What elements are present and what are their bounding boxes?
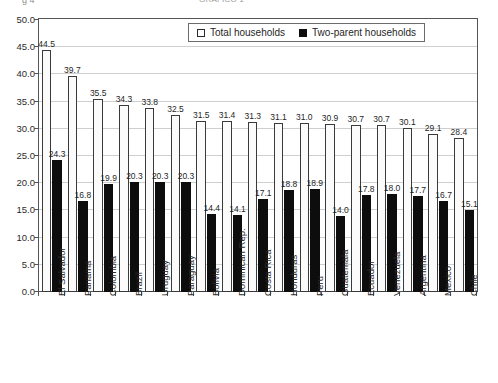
header-center-fragment: GRÁFICO 1 — [199, 0, 244, 4]
data-label-total-households: 30.9 — [319, 114, 341, 123]
data-label-total-households: 32.5 — [165, 105, 187, 114]
x-axis-category-label: Dominican Rep. — [236, 228, 247, 296]
bar-group: 31.118.8 — [271, 19, 297, 292]
x-axis-category-label: Paraguay — [185, 255, 196, 296]
x-axis-category-label: Colombia — [107, 256, 118, 296]
data-label-total-households: 29.1 — [422, 124, 444, 133]
x-axis-category-label: Venezuela — [391, 252, 402, 296]
data-label-total-households: 35.5 — [87, 89, 109, 98]
bar-total-households — [171, 115, 181, 292]
legend-label-total-households: Total households — [210, 27, 285, 38]
data-label-total-households: 30.1 — [397, 118, 419, 127]
bar-group: 35.519.9 — [91, 19, 117, 292]
data-label-total-households: 30.7 — [345, 115, 367, 124]
footer-strip: Dx — [0, 362, 498, 383]
bar-total-households — [300, 123, 310, 292]
bar-total-households — [248, 122, 258, 292]
x-axis-category-label: Peru — [314, 276, 325, 296]
x-axis-category-label: Bolivia — [210, 268, 221, 296]
header-strip: g 4 GRÁFICO 1 — [0, 0, 498, 11]
x-axis-category-label: Costa Rica — [262, 250, 273, 296]
bar-group: 30.117.7 — [400, 19, 426, 292]
chart-root: g 4 GRÁFICO 1 0.05.010.015.020.025.030.0… — [0, 0, 498, 383]
legend-item-total-households: Total households — [197, 27, 285, 38]
open-square-icon — [197, 29, 205, 37]
bar-group: 34.320.3 — [116, 19, 142, 292]
bar-total-households — [145, 108, 155, 292]
bar-group: 28.415.1 — [451, 19, 477, 292]
data-label-total-households: 31.4 — [216, 111, 238, 120]
chart-legend: Total households Two-parent households — [188, 23, 425, 42]
bar-total-households — [42, 50, 52, 292]
x-axis-category-label: Chile — [468, 274, 479, 296]
data-label-total-households: 39.7 — [62, 66, 84, 75]
bar-group: 30.717.8 — [348, 19, 374, 292]
data-label-total-households: 31.3 — [242, 112, 264, 121]
bar-total-households — [428, 134, 438, 292]
x-axis-category-label: Ecuador — [365, 261, 376, 296]
data-label-total-households: 31.5 — [190, 111, 212, 120]
legend-label-two-parent-households: Two-parent households — [312, 27, 416, 38]
data-label-total-households: 31.0 — [294, 113, 316, 122]
x-axis-category-label: El Salvador — [56, 247, 67, 296]
x-axis-category-label: Brazil — [133, 272, 144, 296]
data-label-total-households: 31.1 — [268, 113, 290, 122]
bar-total-households — [351, 125, 361, 292]
x-axis-category-label: Honduras — [288, 255, 299, 296]
bars-layer: 44.524.339.716.835.519.934.320.333.820.3… — [39, 19, 477, 292]
data-label-total-households: 30.7 — [371, 115, 393, 124]
header-left-fragment: g 4 — [22, 0, 35, 5]
bar-group: 31.018.9 — [297, 19, 323, 292]
data-label-total-households: 33.8 — [139, 98, 161, 107]
x-axis-category-label: Panama — [82, 261, 93, 296]
x-axis-category-label: Argentina — [417, 255, 428, 296]
bar-group: 33.820.3 — [142, 19, 168, 292]
data-label-total-households: 34.3 — [113, 95, 135, 104]
data-label-total-households: 44.5 — [36, 40, 58, 49]
bar-total-households — [274, 123, 284, 292]
filled-square-icon — [299, 29, 307, 37]
bar-group: 31.514.4 — [194, 19, 220, 292]
x-axis-category-label: Guatemala — [339, 250, 350, 296]
bar-total-households — [403, 128, 413, 292]
y-axis-ticks — [0, 18, 38, 292]
bar-group: 29.116.7 — [425, 19, 451, 292]
bar-total-households — [68, 76, 78, 292]
legend-item-two-parent-households: Two-parent households — [299, 27, 416, 38]
bar-group: 32.520.3 — [168, 19, 194, 292]
bar-total-households — [377, 125, 387, 292]
x-axis-category-label: Mexico — [442, 266, 453, 296]
x-axis-category-label: Uruguay — [159, 260, 170, 296]
data-label-two-parent-households: 15.1 — [459, 200, 481, 209]
bar-total-households — [119, 105, 129, 292]
bar-total-households — [93, 99, 103, 292]
bar-group: 39.716.8 — [65, 19, 91, 292]
bar-total-households — [454, 138, 464, 292]
data-label-total-households: 28.4 — [448, 128, 470, 137]
